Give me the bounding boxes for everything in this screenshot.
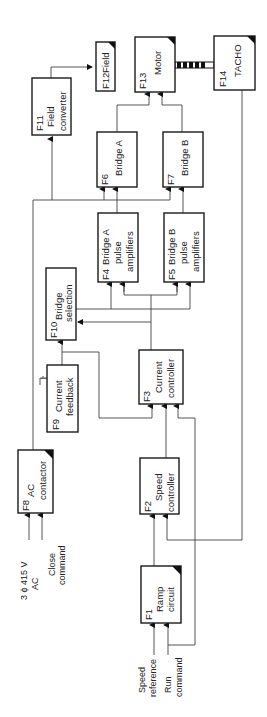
block-label: converter [57,91,68,131]
wire-f7-f13 [162,94,182,132]
wire-f6-f13 [117,94,149,132]
shaft-coupling [175,62,214,68]
block-label: Bridge A [100,228,111,265]
block-f11-field-converter: F11 Field converter [32,78,71,135]
supply-label: AC [30,577,40,590]
wire-f3-split [124,284,177,295]
block-f12-field: F12 Field [96,42,115,91]
block-id: F4 [100,269,111,280]
block-label: Ramp [154,587,165,612]
block-id: F9 [50,419,61,430]
block-label: controller [165,359,176,398]
wire-f11-f12 [51,67,92,78]
block-f4-bridge-a-pulse-amplifiers: F4 Bridge A pulse amplifiers [98,213,138,282]
block-id: F3 [141,391,152,402]
block-label: circuit [165,587,176,612]
drive-block-diagram: F1 Ramp circuit F2 Speed controller F3 C… [0,0,267,717]
block-f10-bridge-selection: F10 Bridge selection [46,268,76,340]
speed-reference-label: reference [148,659,158,697]
block-f14-tacho: F14 TACHO [214,36,255,90]
block-f8-ac-contactor: F8 AC contactor [18,450,53,513]
block-f7-bridge-b: F7 Bridge B [163,132,203,187]
block-label: contactor [37,461,48,500]
block-f2-speed-controller: F2 Speed controller [140,458,179,514]
block-label: Bridge A [113,139,124,176]
block-id: F7 [165,174,176,185]
block-label: TACHO [232,44,243,77]
block-label: pulse [178,241,189,264]
block-f3-current-controller: F3 Current controller [139,350,183,404]
block-id: F2 [142,501,153,512]
block-label: Current [53,380,64,412]
block-label: amplifiers [190,231,201,272]
block-label: selection [63,285,74,323]
block-id: F6 [99,174,110,185]
block-id: F8 [20,500,31,511]
block-label: Speed [153,474,164,501]
block-f9-current-feedback: F9 Current feedback [47,365,78,432]
speed-reference-label: Speed [137,667,147,693]
block-label: pulse [112,241,123,264]
block-label: Bridge B [166,229,177,265]
run-command-label: command [174,657,184,697]
block-id: F10 [48,322,59,338]
block-label: feedback [64,377,75,416]
block-f13-motor: F13 Motor [135,37,175,92]
block-id: F5 [166,269,177,280]
block-id: F1 [143,609,154,620]
block-id: F11 [34,115,45,131]
block-f1-ramp-circuit: F1 Ramp circuit [141,566,181,623]
run-command-label: Run [163,676,173,693]
block-label: Motor [152,51,163,75]
block-f6-bridge-a: F6 Bridge A [97,132,137,187]
block-id: F12 [100,73,111,89]
block-label: AC [25,484,36,497]
supply-label: 3 ϕ 415 V [19,561,29,600]
block-label: Current [153,361,164,393]
block-label: amplifiers [124,231,135,272]
close-command-label: Close [47,553,57,576]
close-command-label: command [57,545,67,585]
block-label: Field [100,52,111,73]
block-f5-bridge-b-pulse-amplifiers: F5 Bridge B pulse amplifiers [164,213,204,282]
block-id: F14 [217,71,228,87]
block-label: controller [165,473,176,512]
block-label: Field [45,106,56,127]
block-id: F13 [137,73,148,89]
block-label: Bridge B [179,140,190,176]
